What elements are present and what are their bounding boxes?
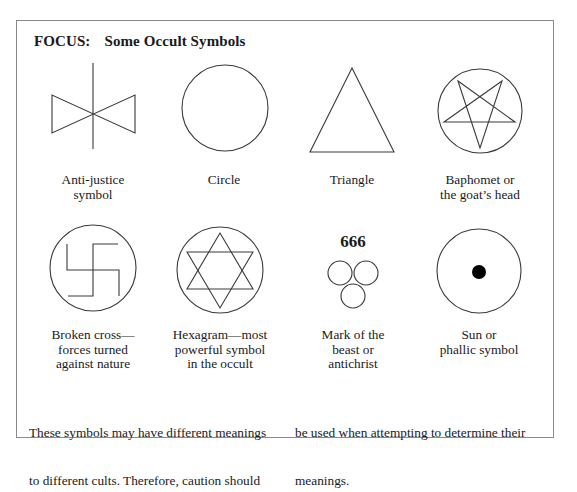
label-broken-cross: Broken cross— forces turned against natu…: [23, 328, 163, 372]
footer-right-column: be used when attempting to determine the…: [295, 393, 525, 492]
label-line: powerful symbol: [150, 343, 290, 358]
label-line: Circle: [154, 173, 294, 188]
anti-justice-icon: [52, 63, 135, 149]
label-line: Broken cross—: [23, 328, 163, 343]
label-sun: Sun or phallic symbol: [409, 328, 549, 357]
label-line: in the occult: [150, 357, 290, 372]
label-line: Mark of the: [283, 328, 423, 343]
footer-line: to different cults. Therefore, caution s…: [29, 473, 266, 489]
footer-line: meanings.: [295, 473, 525, 489]
label-line: the goat’s head: [410, 188, 550, 203]
pentagram-in-circle-icon: [438, 69, 522, 153]
label-line: phallic symbol: [409, 343, 549, 358]
circle-icon: [182, 65, 268, 151]
circle-with-dot-icon: [437, 229, 521, 313]
number-666: 666: [323, 232, 383, 252]
triangle-icon: [310, 68, 394, 152]
label-line: Anti-justice: [23, 173, 163, 188]
label-anti-justice: Anti-justice symbol: [23, 173, 163, 202]
label-circle: Circle: [154, 173, 294, 188]
footer-left-column: These symbols may have different meaning…: [29, 393, 266, 492]
label-line: antichrist: [283, 357, 423, 372]
three-circles-icon: [328, 261, 378, 308]
broken-cross-icon: [50, 225, 136, 311]
label-line: Hexagram—most: [150, 328, 290, 343]
footer-line: These symbols may have different meaning…: [29, 425, 266, 441]
label-hexagram: Hexagram—most powerful symbol in the occ…: [150, 328, 290, 372]
label-line: symbol: [23, 188, 163, 203]
label-line: Sun or: [409, 328, 549, 343]
label-mark-of-beast: Mark of the beast or antichrist: [283, 328, 423, 372]
label-line: beast or: [283, 343, 423, 358]
label-line: against nature: [23, 357, 163, 372]
label-baphomet: Baphomet or the goat’s head: [410, 173, 550, 202]
label-triangle: Triangle: [282, 173, 422, 188]
label-line: forces turned: [23, 343, 163, 358]
label-line: Baphomet or: [410, 173, 550, 188]
hexagram-icon: [177, 227, 263, 313]
label-line: Triangle: [282, 173, 422, 188]
footer-line: be used when attempting to determine the…: [295, 425, 525, 441]
